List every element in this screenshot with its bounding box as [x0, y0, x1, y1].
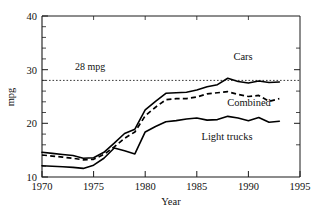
series-line-light-trucks [42, 116, 279, 168]
x-tick-label-1980: 1980 [135, 181, 156, 192]
y-axis-minor-ticks [42, 27, 46, 167]
y-axis-title: mpg [5, 87, 16, 106]
x-tick-label-1995: 1995 [290, 181, 311, 192]
x-tick-label-1990: 1990 [238, 181, 259, 192]
fuel-economy-chart: 40 30 20 10 1970 1975 1980 1985 1990 199… [0, 0, 327, 212]
series-label-combined: Combined [227, 97, 271, 108]
x-tick-label-1985: 1985 [186, 181, 207, 192]
y-tick-label-30: 30 [27, 65, 38, 76]
series-line-cars [42, 78, 279, 158]
x-axis-title: Year [161, 196, 181, 207]
x-tick-label-1975: 1975 [83, 181, 104, 192]
series-label-light-trucks: Light trucks [201, 131, 252, 142]
chart-canvas: 40 30 20 10 1970 1975 1980 1985 1990 199… [0, 0, 327, 212]
y-axis-right-ticks [294, 48, 300, 145]
y-tick-label-20: 20 [27, 118, 38, 129]
reference-line-label: 28 mpg [75, 61, 105, 72]
series-label-cars: Cars [233, 51, 252, 62]
y-tick-label-40: 40 [27, 11, 38, 22]
x-tick-label-1970: 1970 [32, 181, 53, 192]
x-axis-major-ticks [42, 171, 300, 177]
x-axis-top-ticks [94, 16, 249, 20]
